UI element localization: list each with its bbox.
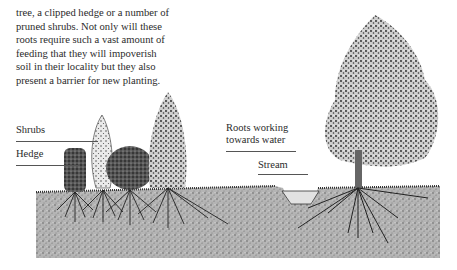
leader-line-shrubs <box>16 141 98 142</box>
label-roots-line2: towards water <box>226 134 288 146</box>
label-roots-working: Roots working towards water <box>226 122 288 146</box>
leader-line-hedge <box>16 165 78 166</box>
label-hedge: Hedge <box>16 148 43 160</box>
label-shrubs: Shrubs <box>16 124 45 136</box>
label-stream: Stream <box>258 159 288 171</box>
leader-line-roots <box>226 151 296 152</box>
label-roots-line1: Roots working <box>226 122 288 134</box>
leader-line-stream <box>258 174 308 175</box>
